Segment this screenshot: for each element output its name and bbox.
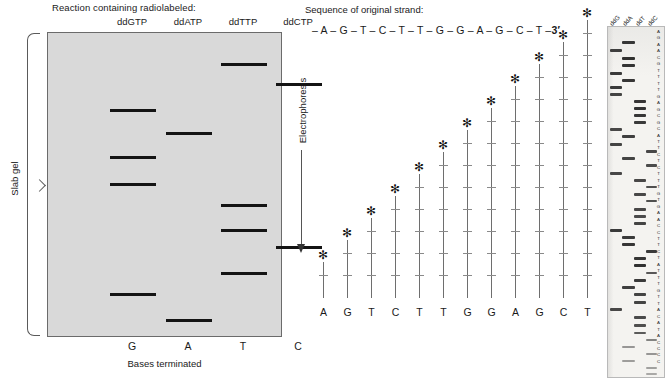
ladder-tick [583,209,592,210]
ladder-tick [583,99,592,100]
ladder-tick [391,209,400,210]
sanger-sequencing-figure: Reaction containing radiolabeled: Slab g… [0,0,668,383]
ladder-tick [511,99,520,100]
autorad-band [634,222,646,225]
slab-gel-label: Slab gel [9,149,20,209]
autoradiograph-image: AGAACGTTTTGAGCGCATTCTCTTTGTGAACCTTCTATTT… [607,26,665,378]
called-sequence-column: AGAACGTTTTGAGCGCATTCTCTTTGTGAACCTTCTATTT… [654,29,663,365]
radiolabel-star-icon: ✻ [582,7,592,19]
autorad-band [634,179,646,182]
ladder-tick [439,187,448,188]
ladder-tick [583,253,592,254]
radiolabel-star-icon: ✻ [390,183,400,195]
gel-band-T-2 [221,204,267,207]
gel-header-label: Reaction containing radiolabeled: [52,2,196,13]
ladder-tick [487,121,496,122]
ladder-tick [559,275,568,276]
ladder-tick [583,187,592,188]
ladder-tick [559,121,568,122]
autorad-band [610,143,622,146]
ladder-tick [463,143,472,144]
radiolabel-star-icon: ✻ [510,73,520,85]
ladder-tick [583,231,592,232]
gel-band-G-4 [110,293,156,296]
gel-band-T-1 [221,63,267,66]
radiolabel-star-icon: ✻ [486,95,496,107]
ladder-base-label-2: G [341,306,355,318]
ladder-fragment-9: ✻ [515,86,516,298]
autorad-band [622,360,635,362]
autorad-band [622,135,635,138]
ladder-tick [535,121,544,122]
ladder-fragment-4: ✻ [395,196,396,298]
ladder-tick [535,165,544,166]
slab-gel-brace [27,33,40,336]
autorad-band [622,64,635,67]
ladder-tick [367,275,376,276]
radiolabel-star-icon: ✻ [414,161,424,173]
autorad-band [634,324,646,327]
ladder-tick [535,253,544,254]
ladder-tick [535,231,544,232]
gel-band-A-2 [166,319,212,322]
ladder-base-label-10: G [533,306,547,318]
lane-base-A: A [168,340,208,352]
autorad-band [634,279,646,282]
ladder-fragment-7: ✻ [467,130,468,298]
autorad-band [634,301,646,304]
autorad-lane-ddg: ddG [608,14,621,27]
autorad-band [634,215,646,218]
ladder-base-label-1: A [317,306,331,318]
ladder-fragment-10: ✻ [539,64,540,298]
ladder-tick [559,253,568,254]
ladder-tick [583,143,592,144]
ladder-tick [463,275,472,276]
autorad-band [634,100,646,103]
ladder-fragment-5: ✻ [419,174,420,298]
autorad-band [622,57,635,60]
ladder-tick [583,33,592,34]
ladder-tick [535,143,544,144]
strand-bases: – A – G – T – C – T – T – G – G – A – G … [312,24,551,36]
radiolabel-star-icon: ✻ [366,205,376,217]
ladder-tick [559,55,568,56]
ladder-tick [559,77,568,78]
autorad-band [622,236,635,239]
autorad-band [646,367,657,369]
autorad-band [634,257,646,260]
ladder-tick [463,165,472,166]
ladder-tick [487,231,496,232]
ladder-base-label-3: T [365,306,379,318]
autorad-band [622,157,635,160]
lane-base-T: T [223,340,263,352]
ladder-base-label-6: T [437,306,451,318]
ladder-base-label-8: G [485,306,499,318]
autorad-band [610,49,622,52]
ladder-tick [415,231,424,232]
fragment-ladder: ✻A✻G✻T✻C✻T✻T✻G✻G✻A✻G✻C✻T [305,40,605,340]
ladder-tick [463,209,472,210]
radiolabel-star-icon: ✻ [318,249,328,261]
autorad-band [622,286,635,289]
ladder-base-label-5: T [413,306,427,318]
radiolabel-star-icon: ✻ [438,139,448,151]
autorad-band [610,72,622,75]
lane-base-C: C [278,340,318,352]
ladder-tick [511,143,520,144]
ladder-tick [439,209,448,210]
autorad-band [610,172,622,175]
ladder-tick [559,165,568,166]
autorad-band [610,308,622,311]
ladder-tick [415,209,424,210]
autorad-band [634,193,646,196]
lane-header-ddttp: ddTTP [213,16,273,27]
autorad-band [634,316,646,319]
ladder-fragment-2: ✻ [347,240,348,298]
ladder-tick [463,187,472,188]
gel-box [47,32,282,337]
ladder-tick [535,187,544,188]
ladder-tick [391,231,400,232]
ladder-fragment-12: ✻ [587,20,588,298]
ladder-tick [511,209,520,210]
autorad-band [610,86,622,89]
